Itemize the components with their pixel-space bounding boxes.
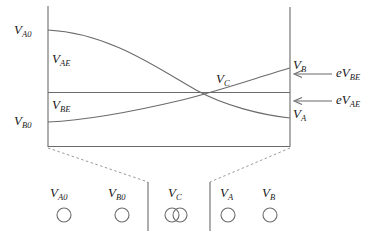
electrode-circle-vb0 — [115, 208, 129, 222]
electrode-circle-vb — [263, 208, 277, 222]
label-vae: VAE — [52, 52, 70, 65]
label-vb0: VB0 — [14, 114, 31, 127]
label-vbe: VBE — [52, 98, 70, 111]
dashed-guide-left — [48, 148, 148, 182]
electrode-label-va: VA — [220, 186, 233, 199]
label-ev-be: eVBE — [336, 66, 360, 79]
figure-vector-canvas — [0, 0, 372, 242]
electrode-circle-va0 — [57, 208, 71, 222]
dashed-guide-right — [210, 148, 290, 182]
label-vb: VB — [293, 58, 306, 71]
electrode-circle-vc-right — [173, 208, 187, 222]
label-ev-ae: eVAE — [336, 93, 360, 106]
electrode-circle-vc-left — [165, 208, 179, 222]
electrode-circle-va — [221, 208, 235, 222]
label-va0: VA0 — [14, 23, 31, 36]
electrode-label-va0: VA0 — [50, 186, 67, 199]
potential-profile-figure: VA0 VAE VBE VB0 VC VB VA eVBE eVAE VA0 V… — [0, 0, 372, 242]
va-potential-curve — [48, 30, 290, 118]
vb-potential-curve — [48, 68, 290, 122]
label-vc: VC — [216, 72, 230, 85]
electrode-label-vc: VC — [168, 186, 182, 199]
electrode-label-vb0: VB0 — [108, 186, 125, 199]
label-va: VA — [293, 107, 306, 120]
electrode-label-vb: VB — [262, 186, 275, 199]
